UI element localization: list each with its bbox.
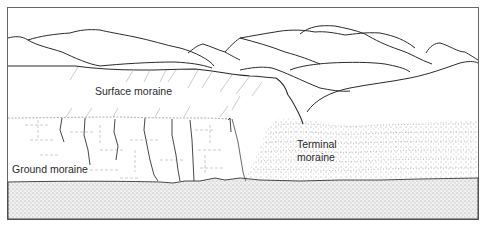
terminal-moraine-label-line2: moraine <box>297 151 337 164</box>
background-mountains <box>8 26 478 92</box>
bedrock-layer <box>8 178 478 219</box>
surface-moraine-label: Surface moraine <box>95 85 172 97</box>
glacier-moraine-diagram: Surface moraine Ground moraine Terminal … <box>0 0 485 228</box>
diagram-canvas <box>0 0 485 228</box>
foreground-hill <box>307 62 478 113</box>
terminal-moraine-label: Terminal moraine <box>297 138 337 164</box>
terminal-moraine-mound <box>243 118 478 181</box>
terminal-moraine-label-line1: Terminal <box>297 138 337 151</box>
ground-moraine-label: Ground moraine <box>12 163 88 175</box>
